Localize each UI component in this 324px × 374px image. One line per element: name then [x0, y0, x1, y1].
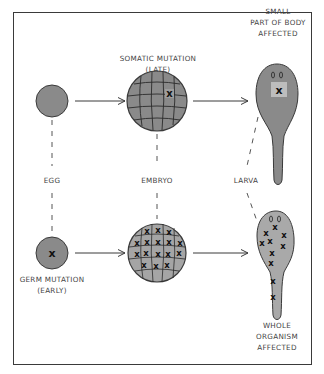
egg-label: EGG	[34, 175, 70, 186]
svg-text:x: x	[164, 260, 170, 270]
somatic-mutation-label: SOMATIC MUTATION (LATE)	[112, 53, 204, 75]
svg-text:x: x	[144, 237, 150, 247]
svg-text:x: x	[270, 276, 276, 286]
egg-icon-top	[36, 85, 68, 117]
svg-text:x: x	[143, 248, 149, 258]
svg-text:x: x	[272, 222, 278, 232]
svg-text:x: x	[280, 241, 286, 251]
svg-text:x: x	[267, 236, 273, 246]
svg-text:x: x	[166, 237, 172, 247]
svg-text:x: x	[268, 258, 274, 268]
small-part-affected-label: SMALL PART OF BODY AFFECTED	[234, 6, 322, 39]
larva-small-affected-icon: x	[256, 64, 298, 185]
egg-mutated-icon: x	[36, 237, 68, 269]
svg-text:x: x	[165, 249, 171, 259]
embryo-label: EMBRYO	[132, 175, 182, 186]
embryo-somatic-icon: x	[127, 71, 187, 131]
svg-text:x: x	[48, 247, 55, 260]
embryo-germ-icon: xxx xxxxx xxxxx xxx	[128, 224, 186, 282]
germ-mutation-label: GERM MUTATION (EARLY)	[10, 274, 94, 296]
svg-text:x: x	[177, 238, 183, 248]
svg-text:x: x	[144, 226, 150, 236]
svg-text:x: x	[141, 260, 147, 270]
svg-text:x: x	[275, 84, 282, 97]
svg-text:x: x	[134, 249, 140, 259]
svg-text:x: x	[155, 249, 161, 259]
svg-text:x: x	[269, 248, 275, 258]
larva-label: LARVA	[226, 175, 266, 186]
svg-text:x: x	[166, 88, 173, 99]
whole-organism-affected-label: WHOLE ORGANISM AFFECTED	[244, 320, 310, 353]
svg-text:x: x	[270, 292, 276, 302]
svg-text:x: x	[166, 227, 172, 237]
svg-text:x: x	[155, 225, 161, 235]
svg-text:x: x	[176, 248, 182, 258]
svg-text:x: x	[281, 230, 287, 240]
larva-whole-affected-icon: xxx xxx xxxx	[257, 211, 294, 320]
svg-text:x: x	[134, 238, 140, 248]
svg-text:x: x	[153, 261, 159, 271]
svg-text:x: x	[259, 238, 265, 248]
svg-text:x: x	[155, 237, 161, 247]
